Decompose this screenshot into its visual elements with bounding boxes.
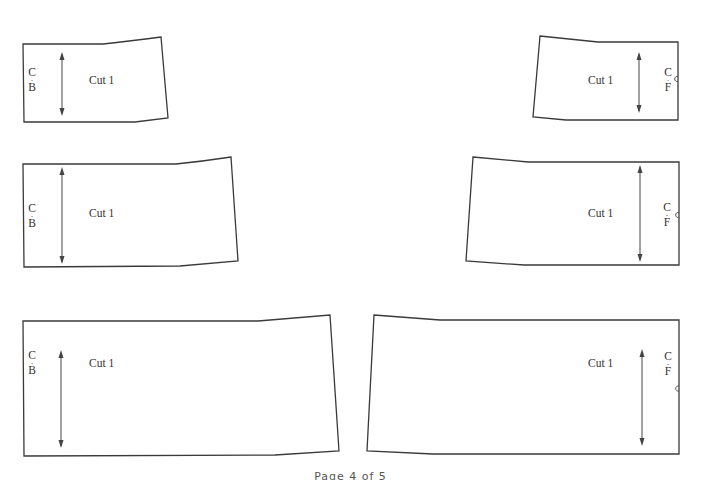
cut-label: Cut 1	[89, 207, 114, 219]
pattern-sheet: C·B Cut 1 Cut 1 C·F C·B Cut 1 Cut 1 C·F …	[0, 0, 701, 480]
piece-outline	[23, 157, 238, 267]
cut-label: Cut 1	[89, 74, 114, 86]
piece-outline	[466, 157, 679, 265]
cut-label: Cut 1	[588, 74, 613, 86]
fold-label-center-back: C·B	[26, 203, 38, 229]
pattern-piece-back-bottom	[23, 315, 339, 456]
page-number-footer: Page 4 of 5	[0, 470, 701, 480]
piece-outline	[367, 315, 679, 454]
cut-label: Cut 1	[588, 357, 613, 369]
pattern-piece-back-middle	[23, 157, 238, 267]
piece-outline	[23, 315, 339, 456]
fold-label-center-back: C·B	[26, 350, 38, 376]
pattern-piece-front-bottom	[367, 315, 679, 454]
fold-label-center-back: C·B	[26, 67, 38, 93]
cut-label: Cut 1	[588, 207, 613, 219]
fold-label-center-front: C·F	[662, 351, 674, 377]
fold-label-center-front: C·F	[661, 202, 673, 228]
cut-label: Cut 1	[89, 357, 114, 369]
pattern-piece-front-middle	[466, 157, 679, 265]
fold-label-center-front: C·F	[662, 67, 674, 93]
pattern-pieces-drawing	[0, 0, 701, 480]
